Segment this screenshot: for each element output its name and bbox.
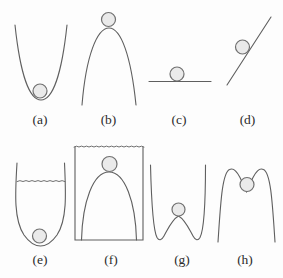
panel-f: (f): [74, 146, 144, 267]
ball-icon: [240, 178, 254, 192]
panel-label-g: (g): [174, 252, 190, 267]
liquid-surface-wave: [17, 181, 65, 182]
panel-a: (a): [15, 25, 67, 127]
panel-label-h: (h): [237, 252, 253, 267]
diagram-canvas: (a) (b) (c) (d) (e): [0, 0, 283, 278]
panel-label-d: (d): [240, 112, 256, 127]
ball-icon: [33, 229, 47, 243]
dome-curve: [82, 172, 137, 240]
panel-d: (d): [227, 17, 271, 127]
double-well-curve: [151, 165, 206, 240]
panel-e: (e): [16, 163, 66, 267]
panel-label-c: (c): [172, 112, 187, 127]
ball-icon: [33, 84, 47, 98]
equilibrium-diagram-figure: (a) (b) (c) (d) (e): [0, 0, 283, 278]
liquid-surface-wave: [74, 146, 144, 147]
ball-icon: [102, 13, 116, 27]
panel-c: (c): [149, 67, 211, 127]
panel-label-f: (f): [104, 252, 118, 267]
panel-label-b: (b): [101, 112, 117, 127]
ball-icon: [236, 40, 250, 54]
inclined-surface-line: [227, 17, 271, 85]
panel-g: (g): [151, 165, 206, 267]
ball-icon: [170, 67, 184, 81]
ball-icon: [102, 157, 117, 172]
panel-h: (h): [218, 169, 275, 267]
ball-icon: [172, 203, 185, 216]
panel-label-e: (e): [33, 252, 48, 267]
panel-label-a: (a): [33, 112, 48, 127]
panel-b: (b): [82, 13, 136, 128]
hill-curve: [82, 28, 136, 105]
